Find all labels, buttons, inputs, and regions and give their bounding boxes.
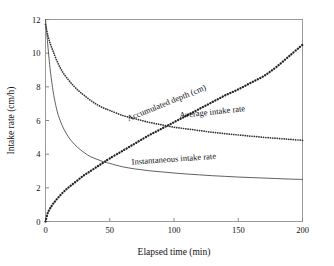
y-tick-label: 0 <box>36 217 40 227</box>
x-tick-label: 100 <box>168 225 181 235</box>
x-axis-title: Elapsed time (min) <box>138 247 211 258</box>
series-line <box>46 45 303 222</box>
y-tick-label: 4 <box>36 149 41 159</box>
y-tick-label: 8 <box>36 82 40 92</box>
y-tick-label: 6 <box>36 116 40 126</box>
y-tick-label: 2 <box>36 183 40 193</box>
intake-rate-chart: 050100150200024681012Elapsed time (min)I… <box>0 0 334 266</box>
y-tick-label: 10 <box>32 48 41 58</box>
x-tick-label: 150 <box>232 225 245 235</box>
y-tick-label: 12 <box>32 15 41 25</box>
x-tick-label: 50 <box>106 225 115 235</box>
plot-frame <box>46 20 303 222</box>
series-label-1: Average intake rate <box>179 103 246 120</box>
x-tick-label: 200 <box>296 225 309 235</box>
x-tick-label: 0 <box>43 225 47 235</box>
chart-figure: 050100150200024681012Elapsed time (min)I… <box>0 0 334 266</box>
y-axis-title: Intake rate (cm/h) <box>6 86 17 154</box>
series-label-2: Instantaneous intake rate <box>131 151 216 167</box>
series-0 <box>46 45 303 222</box>
